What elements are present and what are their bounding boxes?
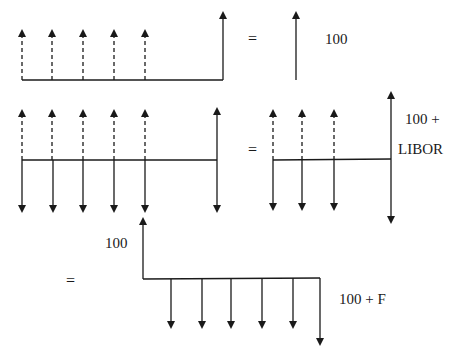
row2-final-label-line1: 100 + (405, 112, 440, 127)
row1-left-timeline (22, 15, 223, 80)
row2-final-label-line2: LIBOR (398, 142, 443, 157)
cash-flow-diagram (0, 0, 457, 358)
row1-equals-sign: = (248, 31, 257, 47)
row3-start-label: 100 (105, 236, 128, 251)
row2-left-timeline (22, 111, 217, 209)
row1-principal-label: 100 (325, 32, 348, 47)
row3-equals-sign: = (66, 273, 75, 289)
row2-equals-sign: = (248, 142, 257, 158)
row3-final-label: 100 + F (339, 292, 386, 307)
row3-timeline (143, 221, 320, 342)
row2-right-timeline (273, 95, 391, 220)
